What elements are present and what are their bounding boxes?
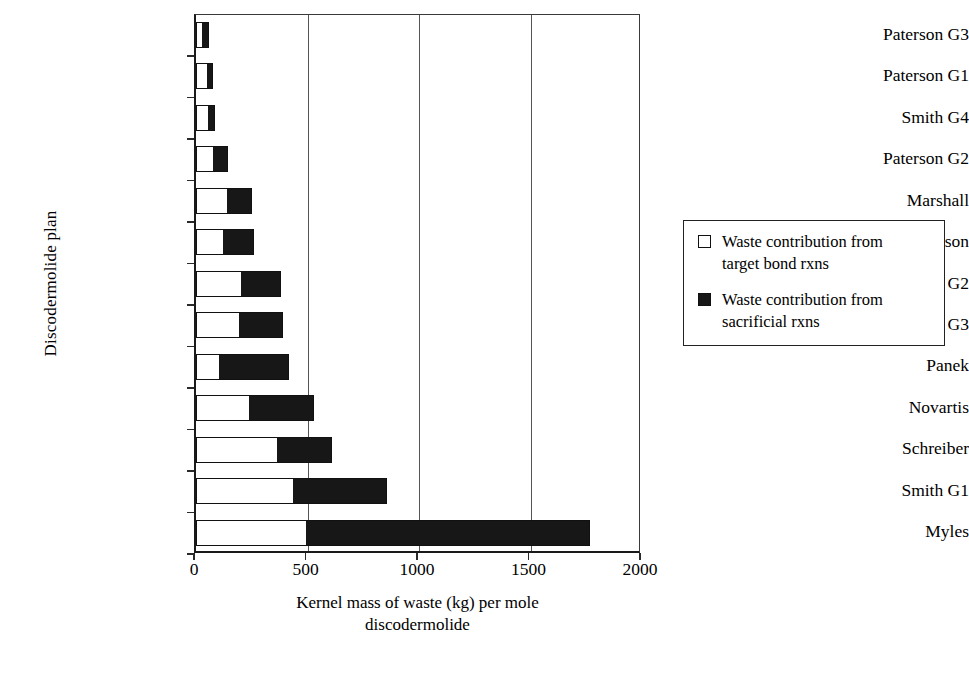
legend: Waste contribution from target bond rxns… (683, 220, 945, 346)
y-axis-tick-mark (187, 180, 194, 182)
y-axis-tick-label: Paterson G2 (789, 150, 969, 168)
stacked-bar[interactable] (196, 146, 228, 172)
x-axis-tick-label: 500 (266, 561, 346, 579)
bar-row (196, 305, 639, 346)
y-axis-tick-label: Marshall (789, 192, 969, 210)
legend-entry-target-bond: Waste contribution from target bond rxns (698, 231, 883, 275)
stacked-bar[interactable] (196, 478, 387, 504)
bar-row (196, 430, 639, 471)
y-axis-title: Discodermolide plan (34, 14, 68, 553)
bar-row (196, 222, 639, 263)
bar-row (196, 264, 639, 305)
x-axis-tick-label: 2000 (600, 561, 680, 579)
y-axis-tick-mark (187, 304, 194, 306)
y-axis-tick-mark (187, 512, 194, 514)
bar-row (196, 513, 639, 554)
legend-label-target-bond: Waste contribution from target bond rxns (722, 231, 883, 275)
bar-row (196, 139, 639, 180)
filled-square-icon (698, 293, 711, 306)
x-axis-title-line2: discodermolide (160, 614, 675, 636)
bar-row (196, 98, 639, 139)
bar-segment-target-bond (196, 437, 277, 463)
y-axis-tick-mark (187, 346, 194, 348)
x-axis-tick-label: 1000 (377, 561, 457, 579)
bar-segment-target-bond (196, 354, 219, 380)
bar-segment-sacrificial (223, 229, 254, 255)
y-axis-tick-mark (187, 97, 194, 99)
bar-segment-target-bond (196, 229, 223, 255)
bar-segment-sacrificial (249, 395, 314, 421)
stacked-bar[interactable] (196, 437, 332, 463)
bar-segment-sacrificial (241, 271, 281, 297)
bar-segment-sacrificial (219, 354, 289, 380)
stacked-bar[interactable] (196, 520, 590, 546)
stacked-bar[interactable] (196, 229, 254, 255)
stacked-bar[interactable] (196, 271, 281, 297)
y-axis-tick-mark (187, 470, 194, 472)
x-axis-title: Kernel mass of waste (kg) per mole disco… (160, 592, 675, 637)
y-axis-tick-label: Smith G4 (789, 109, 969, 127)
y-axis-tick-mark (187, 221, 194, 223)
y-axis-tick-label: Schreiber (789, 440, 969, 458)
stacked-bar[interactable] (196, 105, 215, 131)
stacked-bar[interactable] (196, 22, 209, 48)
stacked-bar[interactable] (196, 312, 283, 338)
y-axis-tick-mark (187, 387, 194, 389)
bar-segment-sacrificial (202, 22, 209, 48)
y-axis-tick-mark (187, 263, 194, 265)
y-axis-tick-mark (187, 138, 194, 140)
y-axis-tick-label: Smith G1 (789, 482, 969, 500)
chart-figure: Discodermolide plan Paterson G3Paterson … (0, 0, 969, 673)
y-axis-tick-label: Paterson G3 (789, 26, 969, 44)
stacked-bar[interactable] (196, 395, 314, 421)
bar-segment-sacrificial (208, 105, 215, 131)
y-axis-tick-mark (187, 55, 194, 57)
bar-row (196, 181, 639, 222)
bar-segment-target-bond (196, 271, 241, 297)
bar-segment-sacrificial (213, 146, 227, 172)
bar-segment-target-bond (196, 188, 227, 214)
stacked-bar[interactable] (196, 354, 289, 380)
bar-segment-target-bond (196, 63, 207, 89)
stacked-bar[interactable] (196, 188, 252, 214)
bar-row (196, 388, 639, 429)
bar-row (196, 347, 639, 388)
y-axis-tick-label: Novartis (789, 399, 969, 417)
bar-segment-sacrificial (207, 63, 213, 89)
bar-segment-sacrificial (239, 312, 283, 338)
legend-entry-sacrificial: Waste contribution from sacrificial rxns (698, 289, 883, 333)
bar-segment-sacrificial (277, 437, 331, 463)
bar-segment-target-bond (196, 312, 239, 338)
x-axis-tick-label: 0 (154, 561, 234, 579)
legend-label-sacrificial: Waste contribution from sacrificial rxns (722, 289, 883, 333)
bar-segment-sacrificial (293, 478, 386, 504)
bar-segment-sacrificial (227, 188, 252, 214)
bar-segment-target-bond (196, 478, 293, 504)
x-axis-title-line1: Kernel mass of waste (kg) per mole (160, 592, 675, 614)
x-axis-tick-label: 1500 (489, 561, 569, 579)
y-axis-tick-label: Paterson G1 (789, 67, 969, 85)
bar-segment-sacrificial (306, 520, 590, 546)
bar-segment-target-bond (196, 146, 213, 172)
y-axis-tick-mark (187, 429, 194, 431)
bar-row (196, 471, 639, 512)
y-axis-tick-label: Myles (789, 523, 969, 541)
bar-segment-target-bond (196, 395, 249, 421)
bar-segment-target-bond (196, 520, 306, 546)
bar-row (196, 56, 639, 97)
y-axis-tick-label: Panek (789, 357, 969, 375)
bar-segment-target-bond (196, 105, 208, 131)
open-square-icon (698, 235, 711, 248)
bar-row (196, 15, 639, 56)
stacked-bar[interactable] (196, 63, 213, 89)
plot-area (194, 14, 640, 553)
